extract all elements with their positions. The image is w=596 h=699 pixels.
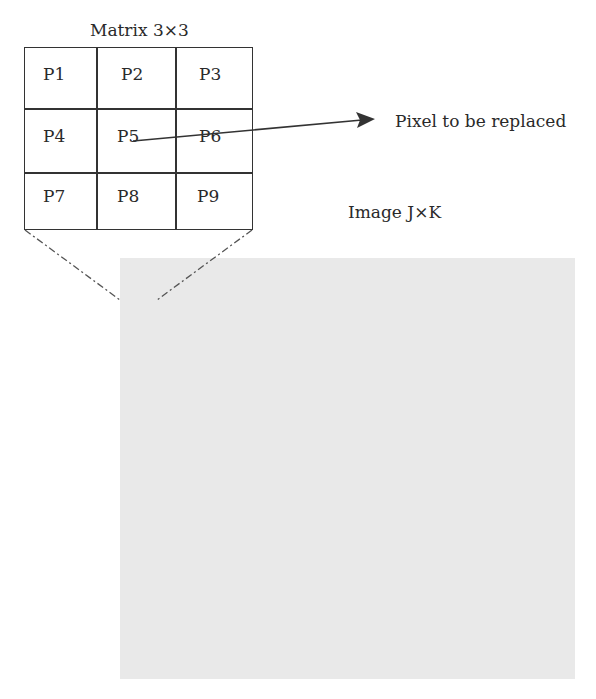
arrow-line <box>133 120 362 141</box>
pixel-label: Pixel to be replaced <box>395 111 566 131</box>
zoom-line-left <box>25 230 120 300</box>
connector-lines <box>0 0 596 699</box>
image-label: Image J×K <box>348 202 441 222</box>
zoom-line-right <box>157 230 252 300</box>
